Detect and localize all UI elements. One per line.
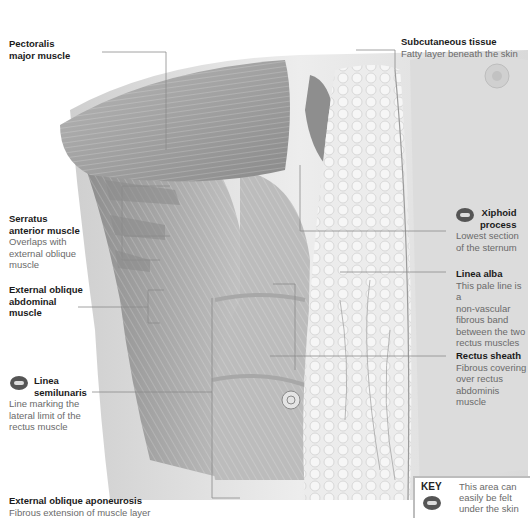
- label-title: anterior muscle: [9, 225, 80, 237]
- label-linea-alba: Linea alba This pale line is a non-vascu…: [456, 268, 528, 349]
- label-title: External oblique aponeurosis: [9, 495, 151, 507]
- label-description: Overlaps with: [9, 236, 80, 248]
- label-description: Lowest section: [456, 230, 519, 242]
- palpation-hand-icon: [456, 208, 474, 222]
- label-description: of the sternum: [456, 242, 519, 254]
- label-xiphoid-description: Lowest section of the sternum: [456, 230, 519, 253]
- label-description: abdominis muscle: [456, 385, 528, 408]
- label-serratus-anterior: Serratus anterior muscle Overlaps with e…: [9, 213, 80, 271]
- label-title: process: [480, 219, 516, 231]
- label-xiphoid-process: Xiphoid process: [480, 207, 516, 230]
- label-description: Fibrous extension of muscle layer: [9, 507, 151, 518]
- label-linea-semilunaris: Linea semilunaris: [34, 375, 87, 398]
- label-title: major muscle: [9, 50, 70, 62]
- palpation-hand-icon: [423, 496, 441, 510]
- label-description: non-vascular: [456, 303, 528, 315]
- label-description: This pale line is a: [456, 280, 528, 303]
- label-title: semilunaris: [34, 387, 87, 399]
- label-title: Xiphoid: [480, 207, 516, 219]
- key-text-line: under the skin: [459, 503, 529, 514]
- label-title: Subcutaneous tissue: [401, 36, 518, 48]
- key-text: This area can easily be felt under the s…: [459, 481, 529, 514]
- label-description: Line marking the: [9, 398, 81, 410]
- key-label: KEY: [421, 481, 442, 492]
- label-rectus-sheath: Rectus sheath Fibrous covering over rect…: [456, 350, 528, 408]
- palpation-hand-icon: [10, 376, 28, 390]
- label-title: Pectoralis: [9, 38, 70, 50]
- label-pectoralis-major: Pectoralis major muscle: [9, 38, 70, 61]
- label-title: muscle: [9, 307, 83, 319]
- key-text-line: easily be felt: [459, 492, 529, 503]
- label-description: Fatty layer beneath the skin: [401, 48, 518, 60]
- label-linea-semilunaris-description: Line marking the lateral limit of the re…: [9, 398, 81, 433]
- label-external-oblique: External oblique abdominal muscle: [9, 284, 83, 319]
- label-title: Rectus sheath: [456, 350, 528, 362]
- label-description: fibrous band: [456, 314, 528, 326]
- label-description: external oblique: [9, 248, 80, 260]
- label-title: Linea: [34, 375, 87, 387]
- label-title: Serratus: [9, 213, 80, 225]
- label-description: lateral limit of the: [9, 410, 81, 422]
- label-description: rectus muscles: [456, 337, 528, 349]
- label-title: abdominal: [9, 296, 83, 308]
- label-description: Fibrous covering: [456, 362, 528, 374]
- label-external-oblique-aponeurosis: External oblique aponeurosis Fibrous ext…: [9, 495, 151, 518]
- label-title: Linea alba: [456, 268, 528, 280]
- label-subcutaneous-tissue: Subcutaneous tissue Fatty layer beneath …: [401, 36, 518, 59]
- key-text-line: This area can: [459, 481, 529, 492]
- label-description: rectus muscle: [9, 421, 81, 433]
- key-legend: KEY This area can easily be felt under t…: [413, 476, 530, 518]
- label-description: over rectus: [456, 373, 528, 385]
- label-description: muscle: [9, 259, 80, 271]
- label-description: between the two: [456, 326, 528, 338]
- label-title: External oblique: [9, 284, 83, 296]
